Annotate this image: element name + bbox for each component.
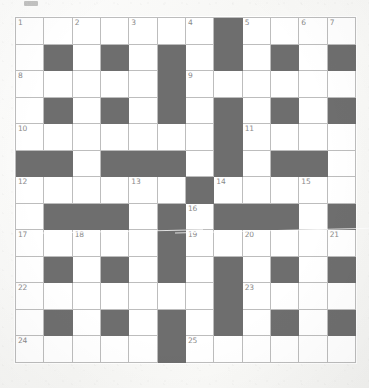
- crossword-letter-cell[interactable]: [129, 230, 157, 257]
- crossword-letter-cell[interactable]: [101, 336, 129, 363]
- crossword-letter-cell[interactable]: [186, 310, 214, 337]
- crossword-letter-cell[interactable]: [73, 336, 101, 363]
- crossword-letter-cell[interactable]: [73, 124, 101, 151]
- crossword-letter-cell[interactable]: [158, 177, 186, 204]
- crossword-letter-cell[interactable]: [328, 283, 356, 310]
- crossword-letter-cell[interactable]: [73, 151, 101, 178]
- crossword-letter-cell[interactable]: [328, 71, 356, 98]
- crossword-letter-cell[interactable]: [299, 283, 327, 310]
- crossword-letter-cell[interactable]: [328, 336, 356, 363]
- crossword-letter-cell[interactable]: [44, 71, 72, 98]
- crossword-letter-cell[interactable]: [299, 310, 327, 337]
- crossword-letter-cell[interactable]: [44, 177, 72, 204]
- crossword-letter-cell[interactable]: 6: [299, 18, 327, 45]
- crossword-letter-cell[interactable]: 25: [186, 336, 214, 363]
- crossword-letter-cell[interactable]: [299, 230, 327, 257]
- crossword-letter-cell[interactable]: [16, 310, 44, 337]
- crossword-letter-cell[interactable]: [44, 336, 72, 363]
- crossword-letter-cell[interactable]: 21: [328, 230, 356, 257]
- crossword-letter-cell[interactable]: 22: [16, 283, 44, 310]
- crossword-letter-cell[interactable]: [243, 310, 271, 337]
- crossword-letter-cell[interactable]: [214, 230, 242, 257]
- crossword-letter-cell[interactable]: [101, 177, 129, 204]
- crossword-letter-cell[interactable]: [73, 283, 101, 310]
- crossword-letter-cell[interactable]: [328, 177, 356, 204]
- crossword-letter-cell[interactable]: [129, 310, 157, 337]
- crossword-letter-cell[interactable]: [299, 336, 327, 363]
- crossword-letter-cell[interactable]: [271, 230, 299, 257]
- crossword-letter-cell[interactable]: [129, 71, 157, 98]
- crossword-letter-cell[interactable]: [16, 204, 44, 231]
- crossword-letter-cell[interactable]: 8: [16, 71, 44, 98]
- crossword-letter-cell[interactable]: [101, 230, 129, 257]
- crossword-letter-cell[interactable]: 7: [328, 18, 356, 45]
- crossword-letter-cell[interactable]: [44, 283, 72, 310]
- crossword-letter-cell[interactable]: 10: [16, 124, 44, 151]
- crossword-letter-cell[interactable]: [73, 257, 101, 284]
- crossword-letter-cell[interactable]: [73, 310, 101, 337]
- crossword-letter-cell[interactable]: [186, 98, 214, 125]
- crossword-letter-cell[interactable]: 20: [243, 230, 271, 257]
- crossword-letter-cell[interactable]: [299, 45, 327, 72]
- crossword-letter-cell[interactable]: 18: [73, 230, 101, 257]
- crossword-letter-cell[interactable]: [299, 98, 327, 125]
- crossword-letter-cell[interactable]: [214, 336, 242, 363]
- crossword-letter-cell[interactable]: [129, 124, 157, 151]
- crossword-letter-cell[interactable]: [44, 18, 72, 45]
- crossword-letter-cell[interactable]: [243, 257, 271, 284]
- crossword-grid[interactable]: 1234567891011121314151617181920212223242…: [15, 17, 356, 363]
- crossword-letter-cell[interactable]: [101, 71, 129, 98]
- crossword-letter-cell[interactable]: 4: [186, 18, 214, 45]
- crossword-letter-cell[interactable]: [16, 45, 44, 72]
- crossword-letter-cell[interactable]: [271, 283, 299, 310]
- crossword-letter-cell[interactable]: 17: [16, 230, 44, 257]
- crossword-letter-cell[interactable]: [186, 257, 214, 284]
- crossword-letter-cell[interactable]: [299, 71, 327, 98]
- crossword-letter-cell[interactable]: [44, 230, 72, 257]
- crossword-letter-cell[interactable]: [299, 124, 327, 151]
- crossword-letter-cell[interactable]: 15: [299, 177, 327, 204]
- crossword-letter-cell[interactable]: [299, 204, 327, 231]
- crossword-letter-cell[interactable]: 9: [186, 71, 214, 98]
- crossword-letter-cell[interactable]: [44, 124, 72, 151]
- crossword-letter-cell[interactable]: 1: [16, 18, 44, 45]
- crossword-letter-cell[interactable]: [243, 45, 271, 72]
- crossword-letter-cell[interactable]: [129, 257, 157, 284]
- crossword-letter-cell[interactable]: [186, 151, 214, 178]
- crossword-letter-cell[interactable]: 24: [16, 336, 44, 363]
- crossword-letter-cell[interactable]: [101, 283, 129, 310]
- crossword-letter-cell[interactable]: [271, 336, 299, 363]
- crossword-letter-cell[interactable]: [73, 98, 101, 125]
- crossword-letter-cell[interactable]: [101, 124, 129, 151]
- crossword-letter-cell[interactable]: [129, 45, 157, 72]
- crossword-letter-cell[interactable]: [214, 71, 242, 98]
- crossword-letter-cell[interactable]: [243, 98, 271, 125]
- crossword-letter-cell[interactable]: 12: [16, 177, 44, 204]
- crossword-letter-cell[interactable]: [73, 45, 101, 72]
- crossword-letter-cell[interactable]: [328, 151, 356, 178]
- crossword-letter-cell[interactable]: 14: [214, 177, 242, 204]
- crossword-letter-cell[interactable]: [271, 71, 299, 98]
- crossword-letter-cell[interactable]: 11: [243, 124, 271, 151]
- crossword-letter-cell[interactable]: [101, 18, 129, 45]
- crossword-letter-cell[interactable]: [243, 336, 271, 363]
- crossword-letter-cell[interactable]: 23: [243, 283, 271, 310]
- crossword-letter-cell[interactable]: 13: [129, 177, 157, 204]
- crossword-letter-cell[interactable]: [158, 124, 186, 151]
- crossword-letter-cell[interactable]: [158, 18, 186, 45]
- crossword-letter-cell[interactable]: [16, 98, 44, 125]
- crossword-letter-cell[interactable]: [73, 71, 101, 98]
- crossword-letter-cell[interactable]: 5: [243, 18, 271, 45]
- crossword-letter-cell[interactable]: [158, 283, 186, 310]
- crossword-letter-cell[interactable]: [186, 45, 214, 72]
- crossword-letter-cell[interactable]: 2: [73, 18, 101, 45]
- crossword-letter-cell[interactable]: 19: [186, 230, 214, 257]
- crossword-letter-cell[interactable]: [129, 204, 157, 231]
- crossword-letter-cell[interactable]: 3: [129, 18, 157, 45]
- crossword-letter-cell[interactable]: [73, 177, 101, 204]
- crossword-letter-cell[interactable]: [328, 124, 356, 151]
- crossword-letter-cell[interactable]: [243, 177, 271, 204]
- crossword-letter-cell[interactable]: 16: [186, 204, 214, 231]
- crossword-letter-cell[interactable]: [243, 71, 271, 98]
- crossword-letter-cell[interactable]: [129, 98, 157, 125]
